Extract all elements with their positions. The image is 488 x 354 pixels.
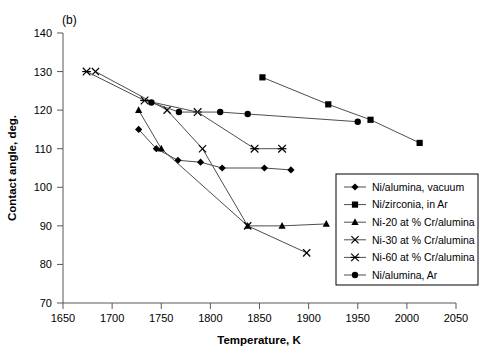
data-point-marker-square — [352, 202, 358, 208]
x-tick-label: 2050 — [444, 312, 468, 324]
y-tick-label: 80 — [40, 258, 52, 270]
x-axis-title: Temperature, K — [217, 334, 301, 346]
chart-figure: (b) 708090100110120130140 16501700175018… — [0, 0, 488, 354]
data-point-marker-circle — [148, 99, 154, 105]
y-tick-label: 120 — [34, 104, 52, 116]
x-tick-label: 1950 — [346, 312, 370, 324]
y-tick-label: 130 — [34, 66, 52, 78]
data-point-marker-circle — [352, 272, 358, 278]
legend-label: Ni/zirconia, in Ar — [372, 198, 448, 210]
legend-label: Ni-60 at % Cr/alumina — [372, 251, 475, 263]
contact-angle-line-chart: (b) 708090100110120130140 16501700175018… — [0, 0, 488, 354]
y-tick-label: 100 — [34, 181, 52, 193]
x-tick-label: 2000 — [395, 312, 419, 324]
data-point-marker-square — [259, 74, 265, 80]
data-point-marker-square — [417, 140, 423, 146]
x-tick-label: 1750 — [149, 312, 173, 324]
x-tick-label: 1650 — [51, 312, 75, 324]
y-tick-label: 70 — [40, 297, 52, 309]
legend-label: Ni-30 at % Cr/alumina — [372, 234, 475, 246]
data-point-marker-square — [367, 117, 373, 123]
x-tick-label: 1850 — [247, 312, 271, 324]
y-tick-label: 90 — [40, 220, 52, 232]
data-point-marker-circle — [217, 109, 223, 115]
y-axis-title: Contact angle, deg. — [6, 115, 18, 221]
chart-legend: Ni/alumina, vacuumNi/zirconia, in ArNi-2… — [336, 174, 478, 285]
data-point-marker-circle — [355, 119, 361, 125]
legend-label: Ni/alumina, vacuum — [372, 181, 464, 193]
x-tick-label: 1900 — [296, 312, 320, 324]
y-tick-label: 110 — [34, 143, 52, 155]
y-tick-label: 140 — [34, 27, 52, 39]
data-point-marker-circle — [245, 111, 251, 117]
legend-label: Ni-20 at % Cr/alumina — [372, 216, 475, 228]
data-point-marker-circle — [176, 109, 182, 115]
legend-label: Ni/alumina, Ar — [372, 269, 438, 281]
data-point-marker-square — [325, 101, 331, 107]
panel-label: (b) — [62, 13, 77, 27]
x-tick-label: 1800 — [198, 312, 222, 324]
x-tick-label: 1700 — [100, 312, 124, 324]
